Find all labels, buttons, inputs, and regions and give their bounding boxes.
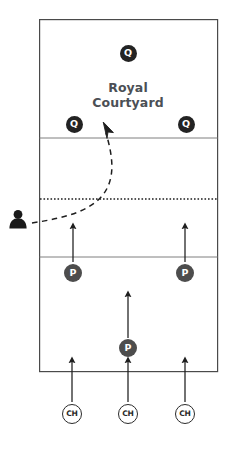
zone-label-line2: Courtyard	[53, 95, 203, 110]
unit-label: CH	[122, 410, 134, 418]
unit-q-top-center[interactable]: Q	[120, 45, 137, 62]
unit-q-left[interactable]: Q	[66, 116, 83, 133]
unit-label: P	[70, 268, 77, 278]
unit-label: P	[182, 268, 189, 278]
unit-ch-left[interactable]: CH	[62, 404, 82, 424]
unit-ch-center[interactable]: CH	[118, 404, 138, 424]
royal-courtyard-label: Royal Courtyard	[53, 80, 203, 110]
diagram-canvas: Royal Courtyard Q Q Q P P P CH CH CH	[0, 0, 228, 453]
unit-label: P	[125, 343, 132, 353]
unit-label: CH	[66, 410, 78, 418]
unit-p-center[interactable]: P	[119, 339, 137, 357]
formation-diagram-svg	[0, 0, 228, 453]
unit-p-left[interactable]: P	[64, 264, 82, 282]
unit-label: Q	[182, 119, 190, 129]
zone-label-line1: Royal	[53, 80, 203, 95]
unit-label: CH	[179, 410, 191, 418]
unit-q-right[interactable]: Q	[178, 116, 195, 133]
observer-person-icon	[9, 210, 26, 229]
unit-p-right[interactable]: P	[176, 264, 194, 282]
unit-ch-right[interactable]: CH	[175, 404, 195, 424]
unit-label: Q	[70, 119, 78, 129]
unit-label: Q	[124, 48, 132, 58]
